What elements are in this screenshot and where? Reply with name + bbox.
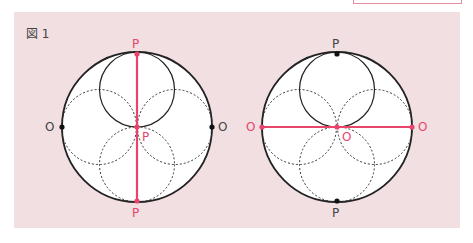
label-top: P — [332, 37, 339, 51]
label-right: O — [218, 120, 227, 134]
label-center: P — [142, 130, 149, 144]
point-center — [334, 124, 339, 129]
point-left — [259, 124, 264, 129]
point-bottom — [134, 198, 139, 203]
label-bottom: P — [332, 206, 339, 220]
point-top — [134, 51, 139, 56]
label-center: O — [342, 130, 351, 144]
point-center — [134, 124, 139, 129]
figure-diagrams: P P P O O P O P O O — [0, 0, 473, 243]
label-right: O — [418, 120, 427, 134]
point-left — [59, 124, 64, 129]
label-bottom: P — [132, 206, 139, 220]
point-right — [209, 124, 214, 129]
label-top: P — [132, 37, 139, 51]
point-top — [334, 51, 339, 56]
point-right — [409, 124, 414, 129]
point-bottom — [334, 198, 339, 203]
left-diagram: P P P O O — [45, 37, 227, 220]
label-left: O — [45, 120, 54, 134]
right-diagram: P O P O O — [246, 37, 427, 220]
label-left: O — [246, 120, 255, 134]
